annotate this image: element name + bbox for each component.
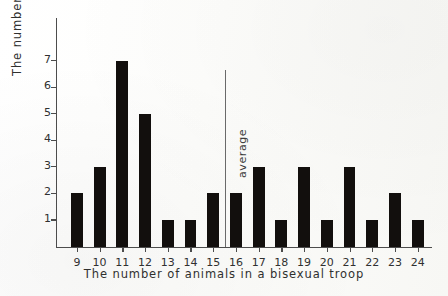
x-tick-mark bbox=[77, 247, 78, 252]
bar bbox=[116, 61, 128, 247]
bar bbox=[71, 193, 83, 246]
y-axis-line bbox=[56, 18, 57, 248]
x-tick-mark bbox=[122, 247, 123, 252]
x-tick-mark bbox=[350, 247, 351, 252]
bar bbox=[275, 220, 287, 247]
y-axis-title: The number of troops bbox=[10, 0, 24, 76]
x-axis-line bbox=[56, 247, 432, 248]
y-tick-mark bbox=[51, 60, 57, 61]
x-tick-mark bbox=[395, 247, 396, 252]
bar bbox=[185, 220, 197, 247]
bar-chart-figure: The number of troops 1234567 91011121314… bbox=[0, 0, 448, 296]
x-tick-mark bbox=[100, 247, 101, 252]
y-tick-label: 2 bbox=[44, 185, 51, 199]
y-tick-mark bbox=[51, 219, 57, 220]
bar bbox=[366, 220, 378, 247]
bar bbox=[412, 220, 424, 247]
y-tick-mark bbox=[51, 140, 57, 141]
x-axis-title: The number of animals in a bisexual troo… bbox=[0, 267, 448, 281]
bar bbox=[298, 167, 310, 247]
y-tick-label: 4 bbox=[44, 132, 51, 146]
x-tick-mark bbox=[190, 247, 191, 252]
bar bbox=[321, 220, 333, 247]
y-tick-label: 1 bbox=[44, 212, 51, 226]
y-tick-mark bbox=[51, 193, 57, 194]
x-tick-mark bbox=[372, 247, 373, 252]
bar bbox=[207, 193, 219, 246]
bar bbox=[94, 167, 106, 247]
x-tick-mark bbox=[304, 247, 305, 252]
x-tick-mark bbox=[168, 247, 169, 252]
y-tick-mark bbox=[51, 87, 57, 88]
y-tick-label: 6 bbox=[44, 79, 51, 93]
x-tick-mark bbox=[145, 247, 146, 252]
bar bbox=[389, 193, 401, 246]
bar bbox=[253, 167, 265, 247]
bar bbox=[162, 220, 174, 247]
y-tick-label: 5 bbox=[44, 106, 51, 120]
bar bbox=[139, 114, 151, 247]
y-tick-mark bbox=[51, 113, 57, 114]
average-line bbox=[225, 70, 226, 247]
y-tick-label: 3 bbox=[44, 159, 51, 173]
plot-area: 1234567 9101112131415161718192021222324 … bbox=[56, 18, 432, 248]
average-line-label: average bbox=[236, 129, 249, 178]
bar bbox=[344, 167, 356, 247]
y-tick-label: 7 bbox=[44, 53, 51, 67]
y-tick-mark bbox=[51, 166, 57, 167]
x-tick-mark bbox=[281, 247, 282, 252]
x-tick-mark bbox=[327, 247, 328, 252]
x-tick-mark bbox=[259, 247, 260, 252]
x-tick-mark bbox=[236, 247, 237, 252]
x-tick-mark bbox=[418, 247, 419, 252]
x-tick-mark bbox=[213, 247, 214, 252]
bar bbox=[230, 193, 242, 246]
